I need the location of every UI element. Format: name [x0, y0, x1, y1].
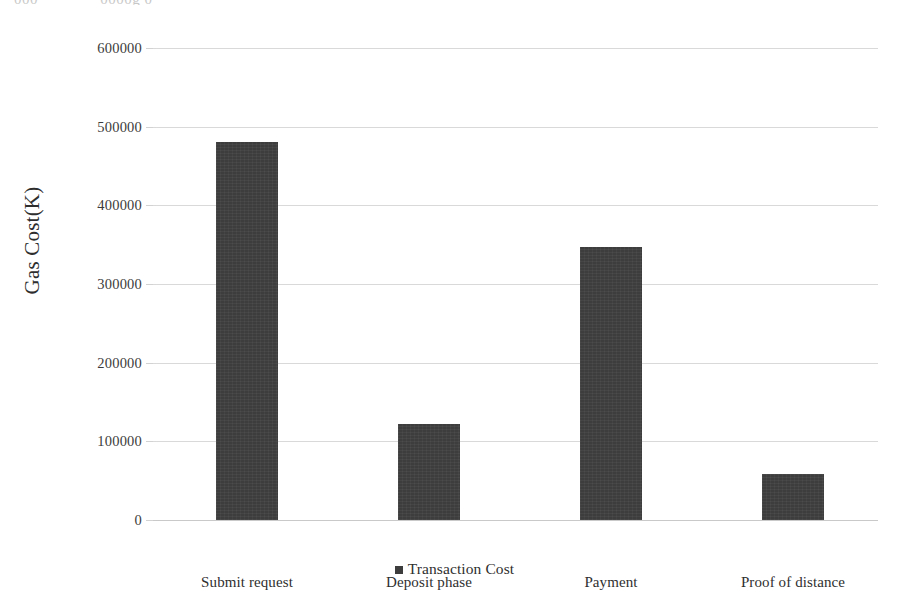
gridline-500000: 500000 — [153, 127, 878, 128]
plot-area: 600000 500000 400000 300000 200000 10000… — [153, 48, 878, 520]
y-tick-label-100000: 100000 — [97, 433, 142, 450]
tick-dash-0 — [146, 520, 153, 521]
gridline-600000: 600000 — [153, 48, 878, 49]
tick-dash-300000 — [146, 284, 153, 285]
bar-payment[interactable] — [580, 247, 642, 520]
y-tick-label-400000: 400000 — [97, 197, 142, 214]
tick-dash-400000 — [146, 205, 153, 206]
y-tick-label-0: 0 — [135, 512, 142, 529]
bar-chart-figure: Gas Cost(K) 600000 500000 400000 300000 … — [0, 0, 909, 601]
bar-submit-request[interactable] — [216, 142, 278, 520]
legend-item-transaction-cost[interactable]: Transaction Cost — [395, 560, 515, 578]
chart-legend: Transaction Cost — [0, 560, 909, 578]
y-axis-title: Gas Cost(K) — [20, 161, 45, 321]
legend-label-transaction-cost: Transaction Cost — [408, 560, 515, 578]
tick-dash-600000 — [146, 48, 153, 49]
y-tick-label-500000: 500000 — [97, 118, 142, 135]
tick-dash-200000 — [146, 363, 153, 364]
tick-dash-500000 — [146, 127, 153, 128]
tick-dash-100000 — [146, 441, 153, 442]
bar-deposit-phase[interactable] — [398, 424, 460, 520]
y-tick-label-600000: 600000 — [97, 40, 142, 57]
gridline-0-baseline: 0 — [153, 520, 878, 521]
bar-proof-of-distance[interactable] — [762, 474, 824, 520]
y-tick-label-300000: 300000 — [97, 276, 142, 293]
legend-swatch-icon — [395, 566, 403, 574]
y-tick-label-200000: 200000 — [97, 354, 142, 371]
